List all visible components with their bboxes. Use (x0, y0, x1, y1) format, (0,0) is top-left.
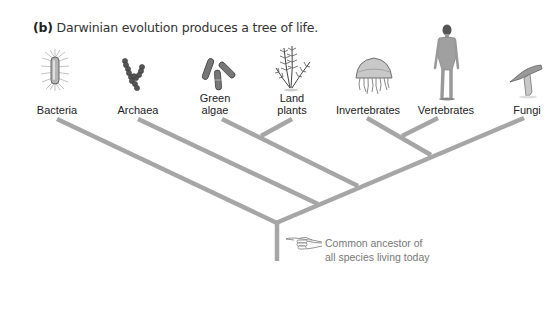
pointing-hand-icon (286, 237, 322, 249)
branch-invertebrates (367, 118, 431, 155)
common-ancestor-annotation: Common ancestor of all species living to… (325, 236, 429, 264)
annotation-line2: all species living today (325, 250, 429, 264)
mushroom-icon (510, 65, 542, 99)
fern-icon (275, 46, 310, 92)
branch-vertebrates (402, 118, 438, 136)
taxon-label-vertebrates: Vertebrates (401, 104, 491, 116)
taxon-label-fungi: Fungi (482, 104, 560, 116)
annotation-line1: Common ancestor of (325, 236, 429, 250)
archaea-chain-icon (122, 58, 144, 90)
taxon-label-land-plants-line1: Land (247, 92, 337, 104)
branch-fungi-main (276, 118, 524, 223)
taxon-label-bacteria: Bacteria (12, 104, 102, 116)
human-figure-icon (435, 25, 458, 101)
green-algae-icon (201, 58, 236, 91)
taxon-label-invertebrates: Invertebrates (323, 104, 413, 116)
branch-archaea (138, 119, 318, 204)
bacterium-icon (41, 49, 69, 91)
tree-diagram (0, 0, 560, 309)
branch-land-plants (261, 119, 292, 136)
branch-green-algae (222, 119, 358, 186)
jellyfish-icon (356, 58, 392, 94)
